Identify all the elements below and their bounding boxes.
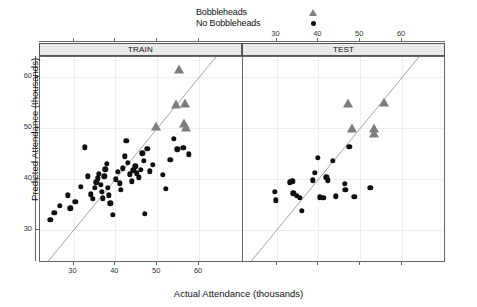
x-axis-line-bottom bbox=[39, 261, 445, 262]
plot-panel-train bbox=[39, 56, 242, 262]
x-axis-tick-label-top: 40 bbox=[307, 29, 327, 38]
panel-strip-test: TEST bbox=[242, 43, 445, 56]
panel-strip-train: TRAIN bbox=[39, 43, 242, 56]
legend: Bobbleheads No Bobbleheads bbox=[196, 7, 346, 29]
legend-key-bobbleheads bbox=[302, 9, 324, 16]
x-axis-tick-label: 40 bbox=[104, 266, 124, 275]
x-axis-tick-label: 30 bbox=[63, 266, 83, 275]
x-axis-tick-label-top: 30 bbox=[266, 29, 286, 38]
x-axis-line-top bbox=[39, 41, 445, 42]
legend-item-bobbleheads: Bobbleheads bbox=[196, 7, 346, 18]
triangle-up-icon bbox=[309, 9, 317, 16]
legend-item-no-bobbleheads: No Bobbleheads bbox=[196, 18, 346, 29]
circle-icon bbox=[311, 21, 316, 26]
x-axis-tick-label-top: 60 bbox=[391, 29, 411, 38]
data-point-bobbleheads bbox=[174, 65, 184, 74]
legend-label-no-bobbleheads: No Bobbleheads bbox=[196, 18, 302, 29]
panel-strip-label-train: TRAIN bbox=[128, 45, 153, 54]
x-axis-tick-label-top: 50 bbox=[349, 29, 369, 38]
legend-key-no-bobbleheads bbox=[302, 21, 324, 26]
x-axis-tick-label: 50 bbox=[146, 266, 166, 275]
legend-label-bobbleheads: Bobbleheads bbox=[196, 7, 302, 18]
y-axis-title: Predicted Attendance (thousands) bbox=[29, 40, 40, 220]
x-axis-tick-label: 60 bbox=[188, 266, 208, 275]
data-point-bobbleheads bbox=[379, 98, 389, 107]
identity-reference-line bbox=[243, 57, 444, 261]
x-axis-title: Actual Attendance (thousands) bbox=[0, 288, 477, 299]
panel-strip-label-test: TEST bbox=[333, 45, 354, 54]
data-point-bobbleheads bbox=[180, 98, 190, 107]
plot-panel-test bbox=[242, 56, 445, 262]
y-axis-tick-label: 30 bbox=[14, 224, 32, 233]
data-point-bobbleheads bbox=[347, 123, 357, 132]
data-point-bobbleheads bbox=[181, 122, 191, 131]
data-point-bobbleheads bbox=[151, 121, 161, 130]
data-point-bobbleheads bbox=[343, 98, 353, 107]
chart-canvas: Bobbleheads No Bobbleheads TRAIN TEST 30… bbox=[0, 0, 477, 307]
data-point-bobbleheads bbox=[369, 128, 379, 137]
